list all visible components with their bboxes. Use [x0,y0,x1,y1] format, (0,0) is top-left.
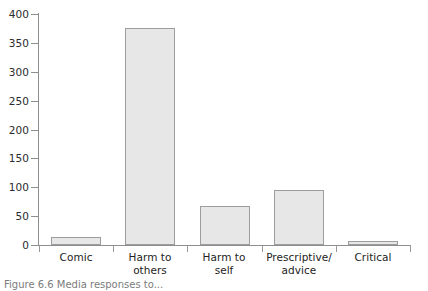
y-axis-tick-label-wrapper: 50 [0,211,29,221]
x-axis-category-label-line: Harm to [113,251,187,264]
x-axis-line [31,245,411,246]
y-axis-tick-label: 300 [3,67,29,78]
y-axis-tick-label-wrapper: 150 [0,153,29,163]
y-axis-tick [31,130,38,131]
y-axis-tick [31,158,38,159]
x-axis-category-label-line: self [187,264,261,277]
x-axis-tick [410,246,411,252]
x-axis-category-label: Comic [39,251,113,264]
y-axis-tick-label: 150 [3,153,29,164]
y-axis-tick [31,245,38,246]
x-axis-category-label-line: others [113,264,187,277]
bar [348,241,398,245]
y-axis-tick [31,43,38,44]
y-axis-tick-label: 350 [3,38,29,49]
y-axis-tick [31,101,38,102]
x-axis-category-label-line: advice [262,264,336,277]
x-axis-category-label: Harm toself [187,251,261,276]
x-axis-category-label-line: Critical [336,251,410,264]
y-axis-tick [31,14,38,15]
y-axis-tick-label-wrapper: 350 [0,38,29,48]
bar [274,190,324,245]
bar [51,237,101,245]
y-axis-tick-label-wrapper: 0 [0,240,29,250]
y-axis-tick-label-wrapper: 200 [0,125,29,135]
y-axis-tick-label-wrapper: 400 [0,9,29,19]
x-axis-category-label-line: Comic [39,251,113,264]
y-axis-tick [31,216,38,217]
y-axis-tick-label: 200 [3,125,29,136]
figure-caption: Figure 6.6 Media responses to... [4,279,424,291]
y-axis-tick [31,187,38,188]
x-axis-category-label: Critical [336,251,410,264]
y-axis-tick-label: 250 [3,96,29,107]
x-axis-category-label: Prescriptive/advice [262,251,336,276]
y-axis-tick [31,72,38,73]
x-axis-category-label-line: Prescriptive/ [262,251,336,264]
y-axis-tick-label-wrapper: 100 [0,182,29,192]
y-axis-tick-label: 400 [3,9,29,20]
y-axis-tick-label-wrapper: 300 [0,67,29,77]
y-axis-tick-label: 100 [3,182,29,193]
bar [125,28,175,245]
y-axis-line [38,13,39,246]
bar [200,206,250,245]
x-axis-category-label: Harm toothers [113,251,187,276]
y-axis-tick-label-wrapper: 250 [0,96,29,106]
y-axis-tick-label: 0 [3,240,29,251]
x-axis-category-label-line: Harm to [187,251,261,264]
y-axis-tick-label: 50 [3,211,29,222]
